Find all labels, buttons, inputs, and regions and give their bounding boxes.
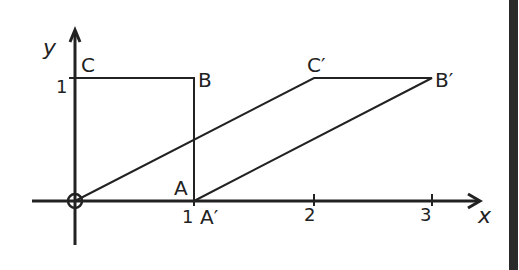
point-label-c-prime: C′ [307, 53, 326, 77]
page-edge-bar [509, 0, 518, 270]
x-tick-label-3: 3 [420, 204, 431, 225]
y-tick-label-1: 1 [56, 76, 67, 97]
point-label-a: A [174, 176, 188, 200]
x-tick-label-1: 1 [182, 206, 193, 227]
x-tick-label-2: 2 [304, 204, 315, 225]
y-axis-label: y [42, 35, 57, 60]
point-label-a-prime: A′ [200, 205, 219, 229]
coordinate-diagram: y x 1 2 3 1 C B A A′ C′ B′ [0, 0, 519, 270]
point-label-b: B [198, 68, 212, 92]
point-label-c: C [81, 53, 95, 77]
sheared-parallelogram [75, 78, 432, 201]
point-label-b-prime: B′ [435, 68, 454, 92]
x-axis-label: x [477, 203, 492, 228]
